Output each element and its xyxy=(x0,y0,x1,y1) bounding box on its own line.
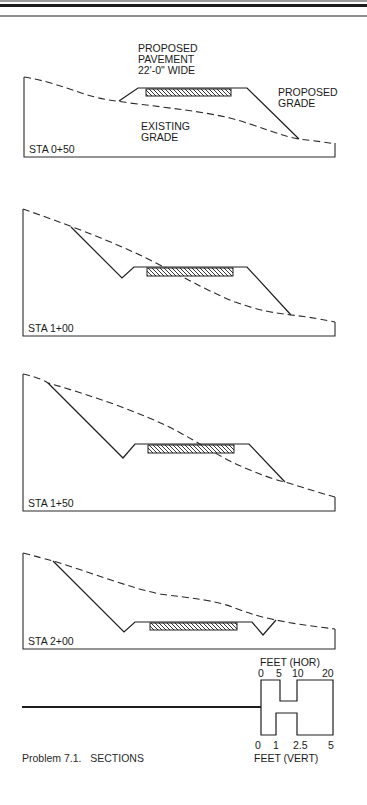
figure-caption: Problem 7.1. SECTIONS xyxy=(22,752,144,764)
vert-tick-5: 5 xyxy=(328,739,334,751)
station-label: STA 0+50 xyxy=(29,143,75,155)
scale-bar: FEET (HOR) 0 5 10 20 0 1 2.5 5 FEET (VER… xyxy=(22,656,334,764)
existing-grade-line xyxy=(23,553,335,629)
pavement-label-line3: 22'-0" WIDE xyxy=(138,64,195,76)
section-sta-2-00: STA 2+00 xyxy=(23,553,335,649)
section-sta-0-50: PROPOSED PAVEMENT 22'-0" WIDE PROPOSED G… xyxy=(24,42,338,157)
proposed-pavement xyxy=(150,623,237,630)
horizontal-scale-outline xyxy=(261,680,333,735)
hor-tick-5: 5 xyxy=(276,667,282,679)
proposed-pavement xyxy=(146,89,231,96)
existing-grade-line xyxy=(23,374,335,497)
station-label: STA 2+00 xyxy=(28,635,74,647)
existing-grade-line xyxy=(23,209,335,322)
vertical-scale-title: FEET (VERT) xyxy=(254,752,318,764)
proposed-pavement xyxy=(148,445,234,453)
section-sta-1-50: STA 1+50 xyxy=(23,374,335,511)
proposed-grade-label-line2: GRADE xyxy=(278,97,315,109)
vert-tick-2-5: 2.5 xyxy=(293,739,308,751)
hor-tick-10: 10 xyxy=(292,667,304,679)
hor-tick-0: 0 xyxy=(258,667,264,679)
vert-tick-0: 0 xyxy=(255,739,261,751)
existing-grade-label-line2: GRADE xyxy=(141,131,178,143)
station-label: STA 1+50 xyxy=(28,497,74,509)
proposed-pavement xyxy=(147,268,233,276)
vert-tick-1: 1 xyxy=(273,739,279,751)
horizontal-scale-title: FEET (HOR) xyxy=(260,656,320,668)
hor-tick-20: 20 xyxy=(322,667,334,679)
proposed-grade-line xyxy=(48,383,285,482)
cross-sections-drawing: PROPOSED PAVEMENT 22'-0" WIDE PROPOSED G… xyxy=(0,0,367,805)
section-frame xyxy=(23,374,335,511)
section-sta-1-00: STA 1+00 xyxy=(23,209,335,336)
station-label: STA 1+00 xyxy=(28,322,74,334)
